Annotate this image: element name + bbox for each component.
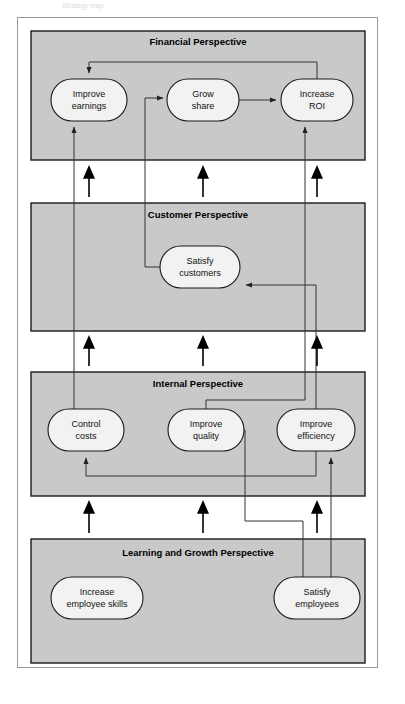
node-satisfy-customers-line1: Satisfy <box>186 256 214 266</box>
node-grow-share-shape[interactable] <box>167 79 239 121</box>
node-satisfy-customers-line2: customers <box>179 268 221 278</box>
node-increase-roi-line1: Increase <box>300 89 335 99</box>
node-control-costs[interactable]: Control costs <box>48 409 124 451</box>
node-improve-efficiency-line2: efficiency <box>297 431 335 441</box>
node-improve-quality-line1: Improve <box>190 419 223 429</box>
node-increase-employee-skills-line2: employee skills <box>66 599 128 609</box>
node-improve-efficiency[interactable]: Improve efficiency <box>277 409 355 451</box>
node-improve-earnings[interactable]: Improve earnings <box>51 79 127 121</box>
title-fragment: Strategy map <box>62 2 104 10</box>
node-increase-roi-line2: ROI <box>309 101 325 111</box>
node-satisfy-customers[interactable]: Satisfy customers <box>160 246 240 288</box>
node-control-costs-shape[interactable] <box>48 409 124 451</box>
panel-customer-title: Customer Perspective <box>148 209 248 220</box>
panel-learning-title: Learning and Growth Perspective <box>122 547 274 558</box>
node-satisfy-employees[interactable]: Satisfy employees <box>274 577 360 619</box>
node-improve-quality-line2: quality <box>193 431 220 441</box>
node-increase-employee-skills-line1: Increase <box>80 587 115 597</box>
node-grow-share-line1: Grow <box>192 89 214 99</box>
node-satisfy-employees-line2: employees <box>295 599 339 609</box>
node-improve-efficiency-line1: Improve <box>300 419 333 429</box>
panel-internal-title: Internal Perspective <box>153 378 243 389</box>
node-increase-employee-skills[interactable]: Increase employee skills <box>51 577 143 619</box>
node-increase-roi-shape[interactable] <box>281 79 353 121</box>
node-control-costs-line1: Control <box>71 419 100 429</box>
node-improve-earnings-shape[interactable] <box>51 79 127 121</box>
node-grow-share-line2: share <box>192 101 215 111</box>
node-improve-earnings-line1: Improve <box>73 89 106 99</box>
node-satisfy-customers-shape[interactable] <box>160 246 240 288</box>
strategy-map-diagram: Strategy map Financial Perspective Custo… <box>0 0 405 704</box>
node-satisfy-employees-line1: Satisfy <box>303 587 331 597</box>
panel-financial-title: Financial Perspective <box>149 36 246 47</box>
node-satisfy-employees-shape[interactable] <box>274 577 360 619</box>
node-improve-quality-shape[interactable] <box>168 409 244 451</box>
node-improve-earnings-line2: earnings <box>72 101 107 111</box>
node-improve-efficiency-shape[interactable] <box>277 409 355 451</box>
node-control-costs-line2: costs <box>75 431 97 441</box>
node-increase-roi[interactable]: Increase ROI <box>281 79 353 121</box>
node-increase-employee-skills-shape[interactable] <box>51 577 143 619</box>
node-grow-share[interactable]: Grow share <box>167 79 239 121</box>
node-improve-quality[interactable]: Improve quality <box>168 409 244 451</box>
